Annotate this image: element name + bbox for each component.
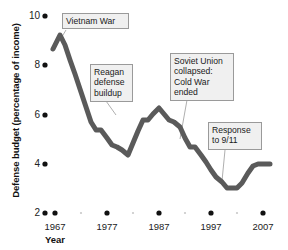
y-axis-tick-marks <box>42 13 47 215</box>
y-axis-title: Defense budget (percentage of income) <box>10 11 21 211</box>
y-tick-label-6: 6 <box>22 109 40 120</box>
x-tick-label-1977: 1977 <box>90 221 124 232</box>
annotation-response-to-911: Response to 9/11 <box>208 122 262 150</box>
y-tick-label-2: 2 <box>22 207 40 218</box>
defense-budget-line-chart: Defense budget (percentage of income) 10… <box>0 0 288 250</box>
x-axis-title: Year <box>35 234 75 245</box>
x-tick-label-2007: 2007 <box>246 221 280 232</box>
x-tick-label-1987: 1987 <box>142 221 176 232</box>
x-tick-label-1997: 1997 <box>194 221 228 232</box>
x-axis-tick-marks <box>52 210 265 215</box>
annotation-soviet-union-collapsed: Soviet Union collapsed: Cold War ended <box>170 53 234 101</box>
y-tick-label-8: 8 <box>22 59 40 70</box>
x-tick-label-1967: 1967 <box>38 221 72 232</box>
annotation-reagan-defense-buildup: Reagan defense buildup <box>90 64 133 102</box>
annotation-vietnam-war: Vietnam War <box>62 13 129 29</box>
data-series-line <box>53 35 270 188</box>
y-tick-label-4: 4 <box>22 158 40 169</box>
y-tick-label-10: 10 <box>22 10 40 21</box>
